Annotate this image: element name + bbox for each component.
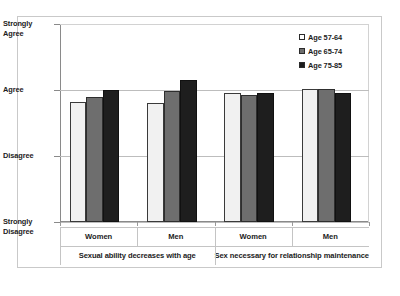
bar bbox=[103, 90, 120, 222]
y-axis-label-line: Agree bbox=[3, 85, 55, 95]
group-separator bbox=[215, 246, 216, 265]
chart-figure: StronglyAgreeAgreeDisagreeStronglyDisagr… bbox=[0, 0, 400, 296]
x-axis-tick bbox=[60, 222, 61, 226]
bar bbox=[164, 91, 181, 222]
category-separator bbox=[137, 227, 138, 246]
x-axis-category-label: Men bbox=[137, 232, 214, 241]
legend-swatch-icon bbox=[299, 62, 305, 68]
y-axis-label-line: Disagree bbox=[3, 151, 55, 161]
bar bbox=[257, 93, 274, 222]
y-axis-label: StronglyAgree bbox=[3, 19, 55, 38]
legend-swatch-icon bbox=[299, 48, 305, 54]
y-axis-label: StronglyDisagree bbox=[3, 217, 55, 236]
y-axis-label: Agree bbox=[3, 85, 55, 95]
y-axis-label-line: Disagree bbox=[3, 227, 55, 237]
y-axis-label: Disagree bbox=[3, 151, 55, 161]
y-axis-label-line: Agree bbox=[3, 29, 55, 39]
legend-swatch-icon bbox=[299, 34, 305, 40]
bar bbox=[335, 93, 352, 222]
x-axis-row-rule bbox=[60, 246, 369, 247]
bar bbox=[241, 95, 258, 222]
legend-item: Age 57-64 bbox=[299, 31, 373, 43]
bar bbox=[70, 102, 87, 222]
axis-row-edge bbox=[60, 246, 61, 265]
y-axis-label-line: Strongly bbox=[3, 217, 55, 227]
legend-label: Age 57-64 bbox=[308, 33, 342, 42]
category-separator bbox=[292, 227, 293, 246]
bar bbox=[86, 97, 103, 222]
bar bbox=[180, 80, 197, 222]
x-axis-category-label: Women bbox=[60, 232, 137, 241]
legend-item: Age 65-74 bbox=[299, 45, 373, 57]
bar bbox=[318, 89, 335, 222]
x-axis-category-label: Women bbox=[215, 232, 292, 241]
category-separator bbox=[215, 227, 216, 246]
x-axis-tick bbox=[215, 222, 216, 226]
x-axis-row-rule bbox=[60, 227, 369, 228]
chart-legend: Age 57-64 Age 65-74 Age 75-85 bbox=[299, 31, 373, 73]
axis-row-edge bbox=[60, 227, 61, 246]
plot-top-border bbox=[60, 24, 369, 25]
x-axis-group-label: Sex necessary for relationship maintenan… bbox=[215, 251, 370, 260]
legend-item: Age 75-85 bbox=[299, 59, 373, 71]
bar bbox=[147, 103, 164, 222]
x-axis-group-label: Sexual ability decreases with age bbox=[60, 251, 215, 260]
y-axis-label-line: Strongly bbox=[3, 19, 55, 29]
x-axis-tick bbox=[292, 222, 293, 226]
x-axis-tick bbox=[369, 222, 370, 226]
x-axis-category-label: Men bbox=[292, 232, 369, 241]
bar bbox=[302, 89, 319, 222]
legend-label: Age 75-85 bbox=[308, 61, 342, 70]
x-axis-tick bbox=[137, 222, 138, 226]
bar bbox=[224, 93, 241, 222]
legend-label: Age 65-74 bbox=[308, 47, 342, 56]
